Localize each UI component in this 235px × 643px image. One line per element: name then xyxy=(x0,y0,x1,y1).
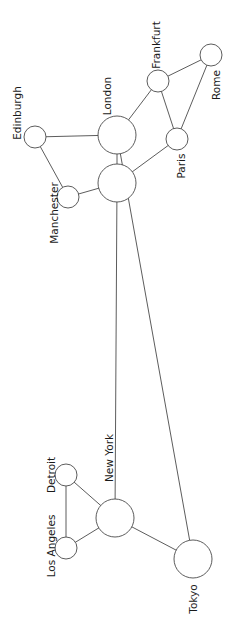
node-label-edinburgh: Edinburgh xyxy=(11,86,23,140)
node-new-york xyxy=(96,499,134,537)
node-los-angeles xyxy=(55,537,77,559)
nodes-layer xyxy=(24,44,222,578)
node-rome xyxy=(200,44,222,66)
node-unlabeled-hub xyxy=(98,164,136,202)
node-label-tokyo: Tokyo xyxy=(187,584,199,614)
node-frankfurt xyxy=(147,70,169,92)
edge-rome-paris xyxy=(177,55,211,139)
node-label-manchester: Manchester xyxy=(48,182,60,244)
node-manchester xyxy=(57,186,79,208)
node-tokyo xyxy=(174,540,212,578)
node-label-los-angeles: Los Angeles xyxy=(45,515,57,578)
node-detroit xyxy=(55,464,77,486)
node-paris xyxy=(166,128,188,150)
node-label-frankfurt: Frankfurt xyxy=(150,21,162,69)
node-london xyxy=(98,116,136,154)
node-label-detroit: Detroit xyxy=(45,457,57,493)
node-label-london: London xyxy=(101,77,113,116)
edge-unlabeled_hub-new_york xyxy=(115,183,117,518)
node-label-new-york: New York xyxy=(103,433,115,482)
node-edinburgh xyxy=(24,126,46,148)
node-label-paris: Paris xyxy=(175,154,187,179)
node-label-rome: Rome xyxy=(210,70,222,100)
network-diagram: EdinburghManchesterLondonFrankfurtParisR… xyxy=(0,0,235,643)
